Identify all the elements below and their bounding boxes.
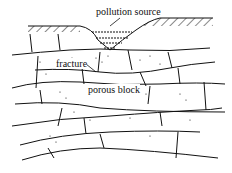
fracture-label: fracture <box>56 58 87 69</box>
diagram-fractured-porous-media: pollution source fracture porous block <box>0 0 232 173</box>
porous-block-label: porous block <box>88 84 140 95</box>
pollution-source-label: pollution source <box>96 6 161 17</box>
